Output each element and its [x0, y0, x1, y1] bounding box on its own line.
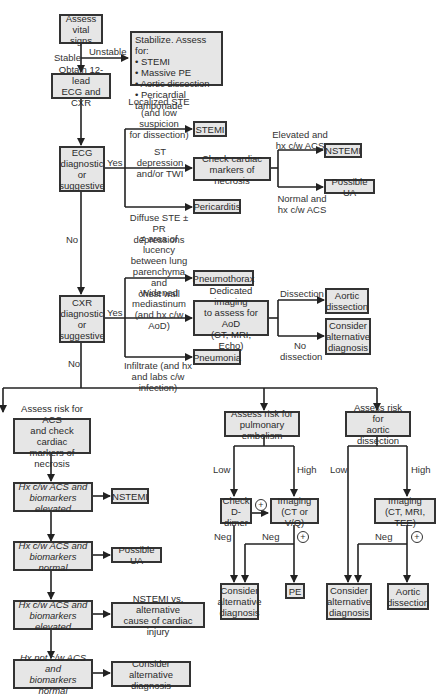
node-text: Pneumothorax	[193, 273, 255, 284]
label-elevated-acs: Elevated and hx c/w ACS	[270, 129, 330, 151]
node-hx-not-acs: Hx not c/w ACS and biomarkers normal	[13, 659, 93, 689]
node-text: PE	[289, 586, 302, 597]
label-ecg-yes: Yes	[107, 157, 123, 168]
node-text: Hx c/w ACS and biomarkers elevated	[18, 599, 88, 632]
label-dissection: Dissection	[280, 288, 324, 299]
node-dedicated-imaging: Dedicated imaging to assess for AoD (CT,…	[193, 300, 269, 336]
node-text: Hx c/w ACS and biomarkers normal	[18, 540, 88, 573]
node-text: Imaging (CT, MRI, TEE)	[379, 495, 431, 528]
node-text: Assess risk for ACS and check cardiac ma…	[18, 403, 86, 469]
label-cxr-yes: Yes	[107, 307, 123, 318]
node-check-cardiac-markers: Check cardiac markers of necrosis	[193, 157, 271, 181]
node-text: Assess vital signs	[64, 13, 98, 46]
label-cxr-no: No	[68, 358, 80, 369]
label-infiltrate: Infiltrate (and hx and labs c/w infectio…	[114, 360, 202, 393]
node-consider-alternative-aod: Consider alternative diagnosis	[326, 583, 372, 620]
node-possible-ua-low: Possible UA	[111, 547, 162, 563]
node-text: Consider alternative diagnosis	[218, 585, 262, 618]
node-stemi: STEMI	[193, 121, 227, 137]
node-possible-ua-top: Possible UA	[324, 179, 375, 194]
node-text: ECG diagnostic or suggestive	[59, 147, 104, 191]
node-text: Pericarditis	[194, 201, 241, 212]
node-assess-aod: Assess risk for aortic dissection	[345, 411, 411, 437]
node-assess-vital-signs: Assess vital signs	[59, 14, 103, 44]
node-cxr-diagnostic: CXR diagnostic or suggestive	[59, 295, 105, 343]
node-text: NSTEMI vs. alternative cause of cardiac …	[116, 593, 200, 637]
node-text: Hx not c/w ACS and biomarkers normal	[18, 652, 88, 696]
node-aortic-dissection-top: Aortic dissection	[325, 288, 369, 314]
label-stable: Stable	[54, 52, 81, 63]
plus-icon-ddimer: +	[255, 499, 267, 511]
node-aortic-dissection-low: Aortic dissection	[387, 583, 429, 610]
node-text: Consider alternative diagnosis	[116, 658, 186, 691]
node-text: Check cardiac markers of necrosis	[198, 153, 266, 186]
node-consider-alternative-top: Consider alternative diagnosis	[325, 318, 371, 355]
node-text: Obtain 12-lead ECG and CXR	[56, 64, 106, 108]
node-text: Assess risk for aortic dissection	[350, 402, 406, 446]
node-text: Check D-dimer	[223, 495, 250, 528]
label-aod-neg: Neg	[375, 531, 392, 542]
node-text: Imaging (CT or V/Q)	[275, 495, 314, 528]
label-widened-mediastinum: Widened mediastinum (and hx c/w AoD)	[126, 287, 192, 331]
label-pe-low: Low	[213, 464, 230, 475]
node-stabilize: Stabilize. Assess for: • STEMI • Massive…	[130, 31, 223, 86]
node-text: Consider alternative diagnosis	[326, 320, 370, 353]
node-text: NSTEMI	[325, 145, 361, 156]
node-text: Possible UA	[329, 176, 370, 198]
label-pe-neg-1: Neg	[214, 531, 231, 542]
node-text: Aortic dissection	[326, 290, 368, 312]
node-ecg-diagnostic: ECG diagnostic or suggestive	[59, 146, 105, 192]
node-text: Possible UA	[116, 544, 157, 566]
node-text: Consider alternative diagnosis	[327, 585, 371, 618]
plus-icon-imaging-pe: +	[297, 531, 309, 543]
node-text: Hx c/w ACS and biomarkers elevated	[18, 481, 88, 514]
label-unstable: Unstable	[89, 46, 127, 57]
node-pericarditis: Pericarditis	[193, 199, 241, 214]
node-assess-pe: Assess risk for pulmonary embolism	[224, 411, 300, 437]
node-obtain-ecg-cxr: Obtain 12-lead ECG and CXR	[51, 73, 111, 99]
node-hx-acs-elevated-1: Hx c/w ACS and biomarkers elevated	[13, 482, 93, 512]
node-consider-alternative-pe: Consider alternative diagnosis	[220, 583, 259, 620]
node-text: Assess risk for pulmonary embolism	[229, 408, 295, 441]
node-text: Aortic dissection	[387, 586, 429, 608]
node-text: Dedicated imaging to assess for AoD (CT,…	[198, 285, 264, 351]
node-pe: PE	[285, 583, 305, 599]
node-pneumothorax: Pneumothorax	[193, 270, 254, 286]
node-assess-acs: Assess risk for ACS and check cardiac ma…	[13, 418, 91, 454]
label-no-dissection: No dissection	[280, 340, 320, 362]
node-text: NSTEMI	[112, 491, 148, 502]
node-hx-acs-elevated-2: Hx c/w ACS and biomarkers elevated	[13, 600, 93, 630]
node-text: STEMI	[195, 124, 224, 135]
label-pe-neg-2: Neg	[262, 531, 279, 542]
node-hx-acs-normal: Hx c/w ACS and biomarkers normal	[13, 541, 93, 571]
label-pe-high: High	[297, 464, 317, 475]
label-ecg-no: No	[66, 234, 78, 245]
node-imaging-aod: Imaging (CT, MRI, TEE)	[374, 498, 436, 524]
node-check-ddimer: Check D-dimer	[220, 498, 252, 524]
label-localized-ste: Localized STE (and low suspicion for dis…	[126, 96, 192, 140]
label-aod-low: Low	[330, 464, 347, 475]
plus-icon-imaging-aod: +	[411, 531, 423, 543]
node-imaging-pe: Imaging (CT or V/Q)	[270, 498, 319, 524]
label-aod-high: High	[411, 464, 431, 475]
node-nstemi-low: NSTEMI	[111, 488, 149, 504]
label-normal-acs: Normal and hx c/w ACS	[276, 193, 328, 215]
node-nstemi-vs-alternative: NSTEMI vs. alternative cause of cardiac …	[111, 602, 205, 628]
node-consider-alternative-acs: Consider alternative diagnosis	[111, 661, 191, 687]
node-text: CXR diagnostic or suggestive	[59, 297, 104, 341]
label-st-depression: ST depression and/or TWI	[130, 146, 190, 179]
